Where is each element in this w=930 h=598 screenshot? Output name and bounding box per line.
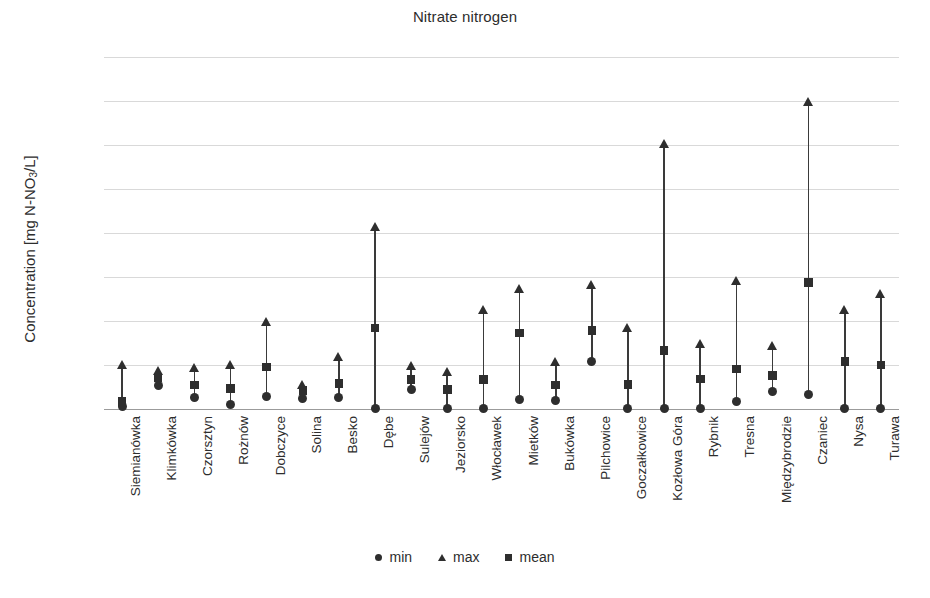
min-marker xyxy=(551,396,560,405)
min-marker xyxy=(190,393,199,402)
x-axis-tick-label: Rożnów xyxy=(236,416,251,465)
mean-marker xyxy=(479,375,488,384)
min-marker xyxy=(804,390,813,399)
max-marker xyxy=(695,339,705,348)
triangle-marker-icon xyxy=(438,554,446,561)
y-axis-title-prefix: Concentration [mg N-NO xyxy=(21,178,38,343)
mean-marker xyxy=(443,385,452,394)
mean-marker xyxy=(660,346,669,355)
min-marker xyxy=(262,392,271,401)
max-marker xyxy=(731,276,741,285)
max-marker xyxy=(839,305,849,314)
chart-root: Nitrate nitrogen Concentration [mg N-NO3… xyxy=(0,0,930,598)
x-axis-tick-label: Sulejów xyxy=(417,416,432,463)
max-marker xyxy=(622,323,632,332)
x-axis-tick-label: Włocławek xyxy=(489,416,504,481)
legend-item-mean: mean xyxy=(505,549,554,565)
mean-marker xyxy=(624,380,633,389)
mean-marker xyxy=(299,386,308,395)
max-marker xyxy=(189,363,199,372)
gridline xyxy=(104,101,899,102)
plot-area: 0.01.02.03.04.05.06.07.08.0 xyxy=(104,57,899,409)
circle-marker-icon xyxy=(375,554,382,561)
max-marker xyxy=(514,284,524,293)
legend-item-max: max xyxy=(438,549,479,565)
max-marker xyxy=(803,97,813,106)
x-axis-tick-label: Goczałkowice xyxy=(634,416,649,499)
mean-marker xyxy=(732,365,741,374)
min-marker xyxy=(298,394,307,403)
mean-marker xyxy=(588,326,597,335)
max-marker xyxy=(370,222,380,231)
x-axis-tick-label: Nysa xyxy=(851,416,866,447)
x-axis-tick-label: Bukówka xyxy=(562,416,577,471)
range-stem xyxy=(591,288,593,361)
min-marker xyxy=(407,385,416,394)
x-axis-tick-label: Rybnik xyxy=(706,416,721,457)
mean-marker xyxy=(262,363,271,372)
max-marker xyxy=(406,361,416,370)
x-axis-tick-label: Kozłowa Góra xyxy=(670,416,685,501)
min-marker xyxy=(443,404,452,413)
x-axis-tick-label: Międzybrodzie xyxy=(779,416,794,503)
chart-title: Nitrate nitrogen xyxy=(0,8,930,25)
mean-marker xyxy=(877,361,886,370)
max-marker xyxy=(586,280,596,289)
legend-item-min: min xyxy=(375,549,412,565)
mean-marker xyxy=(226,384,235,393)
mean-marker xyxy=(696,375,705,384)
x-axis-tick-label: Czaniec xyxy=(815,416,830,465)
max-marker xyxy=(117,360,127,369)
max-marker xyxy=(659,139,669,148)
range-stem xyxy=(772,349,774,392)
max-marker xyxy=(767,341,777,350)
x-axis-tick-label: Pilchowice xyxy=(598,416,613,480)
y-axis-title-subscript: 3 xyxy=(28,172,39,178)
legend-label-max: max xyxy=(453,549,479,565)
range-stem xyxy=(374,230,376,409)
min-marker xyxy=(696,404,705,413)
gridline xyxy=(104,145,899,146)
max-marker xyxy=(261,317,271,326)
mean-marker xyxy=(118,397,127,406)
gridline xyxy=(104,321,899,322)
mean-marker xyxy=(407,375,416,384)
mean-marker xyxy=(841,357,850,366)
x-axis-tick-label: Klimkówka xyxy=(164,416,179,481)
legend-label-mean: mean xyxy=(519,549,554,565)
min-marker xyxy=(334,393,343,402)
y-axis-title: Concentration [mg N-NO3/L] xyxy=(21,69,39,429)
max-marker xyxy=(550,357,560,366)
mean-marker xyxy=(371,324,380,333)
min-marker xyxy=(840,404,849,413)
x-axis-tick-label: Siemianówka xyxy=(128,416,143,496)
gridline xyxy=(104,365,899,366)
max-marker xyxy=(225,360,235,369)
mean-marker xyxy=(335,379,344,388)
mean-marker xyxy=(154,374,163,383)
range-stem xyxy=(736,284,738,402)
min-marker xyxy=(371,404,380,413)
range-stem xyxy=(483,313,485,408)
x-axis-tick-label: Mietków xyxy=(526,416,541,466)
max-marker xyxy=(442,367,452,376)
min-marker xyxy=(660,404,669,413)
range-stem xyxy=(627,331,629,408)
range-stem xyxy=(266,325,268,397)
square-marker-icon xyxy=(505,554,512,561)
max-marker xyxy=(478,305,488,314)
min-marker xyxy=(515,395,524,404)
gridline xyxy=(104,189,899,190)
range-stem xyxy=(519,292,521,400)
min-marker xyxy=(587,357,596,366)
max-marker xyxy=(333,352,343,361)
x-axis-tick-label: Turawa xyxy=(887,416,902,461)
min-marker xyxy=(226,400,235,409)
x-axis-line xyxy=(104,409,899,410)
y-axis-title-suffix: /L] xyxy=(21,155,38,172)
x-axis-tick-label: Jeziorsko xyxy=(453,416,468,473)
mean-marker xyxy=(804,278,813,287)
range-stem xyxy=(808,105,810,394)
gridline xyxy=(104,233,899,234)
range-stem xyxy=(663,147,665,408)
